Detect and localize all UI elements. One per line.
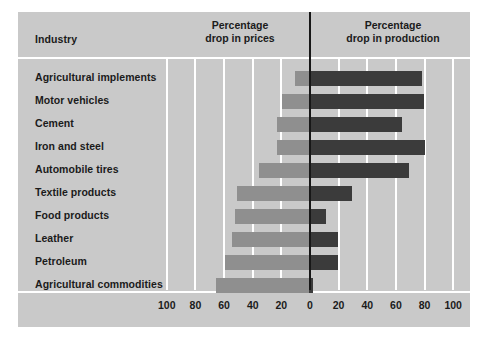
bar-production: [309, 71, 422, 86]
left-axis-title: Percentage drop in prices: [165, 19, 315, 45]
bar-production: [309, 186, 352, 201]
bar-prices: [277, 140, 309, 155]
bar-row: Automobile tires: [18, 159, 470, 182]
bar-prices: [259, 163, 309, 178]
bar-row: Agricultural commodities: [18, 274, 470, 297]
bar-prices: [216, 278, 309, 293]
plot-area: Agricultural implementsMotor vehiclesCem…: [18, 59, 470, 290]
bar-production: [309, 140, 425, 155]
bar-production: [309, 232, 338, 247]
row-label-agricultural-implements: Agricultural implements: [35, 71, 156, 83]
row-label-agricultural-commodities: Agricultural commodities: [35, 278, 163, 290]
row-label-iron-and-steel: Iron and steel: [35, 140, 104, 152]
bar-row: Cement: [18, 113, 470, 136]
column-header-industry: Industry: [35, 33, 77, 45]
right-axis-title: Percentage drop in production: [318, 19, 468, 45]
bar-prices: [225, 255, 309, 270]
bar-production: [309, 255, 338, 270]
bar-row: Motor vehicles: [18, 90, 470, 113]
bar-prices: [282, 94, 309, 109]
row-label-petroleum: Petroleum: [35, 255, 87, 267]
zero-axis-line: [309, 12, 311, 290]
right-axis-title-line1: Percentage: [318, 19, 468, 32]
row-label-food-products: Food products: [35, 209, 109, 221]
row-label-cement: Cement: [35, 117, 74, 129]
chart-plate: Industry Percentage drop in prices Perce…: [18, 12, 470, 327]
row-label-automobile-tires: Automobile tires: [35, 163, 119, 175]
left-axis-title-line1: Percentage: [165, 19, 315, 32]
chart-header: Industry Percentage drop in prices Perce…: [18, 12, 470, 57]
left-axis-title-line2: drop in prices: [165, 32, 315, 45]
bar-production: [309, 163, 409, 178]
bar-prices: [232, 232, 309, 247]
right-axis-title-line2: drop in production: [318, 32, 468, 45]
row-label-leather: Leather: [35, 232, 73, 244]
bar-row: Agricultural implements: [18, 67, 470, 90]
bar-prices: [277, 117, 309, 132]
bar-row: Food products: [18, 205, 470, 228]
bar-row: Petroleum: [18, 251, 470, 274]
bar-row: Leather: [18, 228, 470, 251]
row-label-motor-vehicles: Motor vehicles: [35, 94, 109, 106]
tick-label: 100: [433, 299, 473, 311]
bar-prices: [237, 186, 309, 201]
bar-prices: [295, 71, 309, 86]
bar-prices: [235, 209, 309, 224]
bar-production: [309, 117, 402, 132]
chart-figure: Industry Percentage drop in prices Perce…: [0, 0, 488, 339]
bar-row: Iron and steel: [18, 136, 470, 159]
bar-production: [309, 94, 424, 109]
bar-production: [309, 209, 326, 224]
row-label-textile-products: Textile products: [35, 186, 116, 198]
bar-row: Textile products: [18, 182, 470, 205]
